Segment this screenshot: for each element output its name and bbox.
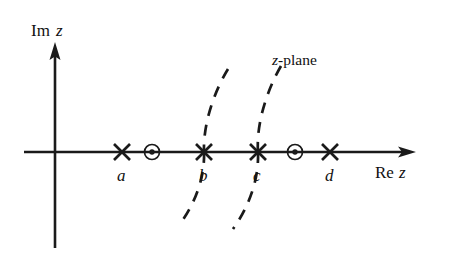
diagram-canvas — [0, 0, 450, 263]
plane-label: z-plane — [272, 52, 317, 68]
real-axis — [24, 147, 416, 158]
point-label-d: d — [325, 167, 334, 184]
real-axis-label-prefix: Re — [375, 163, 394, 182]
branch-cut-c-lower — [233, 152, 258, 229]
branch-cut-through-c — [233, 66, 281, 229]
plane-label-suffix: -plane — [278, 51, 317, 68]
real-axis-label: Rez — [375, 164, 406, 181]
point-label-a: a — [117, 167, 126, 184]
imaginary-axis — [50, 42, 61, 248]
imaginary-axis-label-variable: z — [56, 21, 63, 40]
point-label-c: c — [253, 167, 261, 184]
branch-cut-through-b — [180, 69, 228, 224]
branch-cut-b-lower — [180, 152, 204, 224]
real-axis-label-variable: z — [399, 163, 406, 182]
branch-cut-b-upper — [204, 69, 228, 152]
imaginary-axis-label-prefix: Im — [31, 21, 50, 40]
point-label-b: b — [199, 167, 208, 184]
complex-plane-figure: Imz Rez z-plane a b c d — [0, 0, 450, 263]
imaginary-axis-label: Imz — [31, 22, 63, 39]
branch-cut-c-upper — [258, 66, 281, 152]
